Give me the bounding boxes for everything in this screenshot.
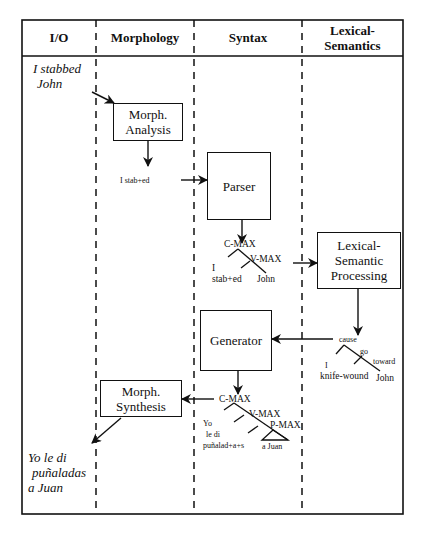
morph-analysis-box: Morph.Analysis	[113, 103, 183, 141]
lcs-root-cause: cause	[339, 335, 357, 344]
parse-tree-object: John	[257, 274, 275, 284]
column-header-lexical-semantics: Lexical- Semantics	[302, 23, 403, 53]
parse-tree-root: C-MAX	[224, 239, 256, 249]
translation-pipeline-diagram: I/O Morphology Syntax Lexical- Semantics…	[0, 0, 422, 538]
parser-box: Parser	[207, 152, 271, 220]
arrow-to-output	[92, 418, 121, 443]
lcs-instrument: knife-wound	[320, 371, 369, 381]
lcs-toward: toward	[373, 357, 395, 366]
gen-tree-noun: puñalad+a+s	[203, 441, 244, 450]
morph-output-label: I stab+ed	[120, 176, 150, 185]
lcs-goal: John	[376, 373, 394, 383]
morph-synthesis-box: Morph.Synthesis	[100, 380, 182, 417]
parse-tree-verb: stab+ed	[212, 274, 242, 284]
parse-tree-subject: I	[212, 263, 215, 273]
column-header-io: I/O	[22, 30, 96, 45]
lexical-semantic-processing-box: Lexical- Semantic Processing	[317, 232, 401, 289]
gen-tree-root: C-MAX	[219, 394, 251, 404]
column-header-syntax: Syntax	[194, 30, 302, 45]
lcs-go: go	[360, 347, 368, 356]
column-header-morphology: Morphology	[96, 30, 194, 45]
lcs-subject: I	[325, 361, 328, 370]
generator-box: Generator	[200, 310, 272, 371]
gen-tree-clitic-verb: le di	[206, 430, 220, 439]
gen-tree-pmax: P-MAX	[270, 420, 301, 430]
output-sentence: Yo le di puñaladas a Juan	[28, 450, 86, 495]
gen-tree-vmax: V-MAX	[249, 409, 280, 419]
input-sentence: I stabbed John	[33, 61, 81, 91]
gen-tree-subject: Yo	[203, 419, 212, 428]
gen-tree-pp: a Juan	[262, 442, 282, 451]
parse-tree-vmax: V-MAX	[250, 254, 281, 264]
